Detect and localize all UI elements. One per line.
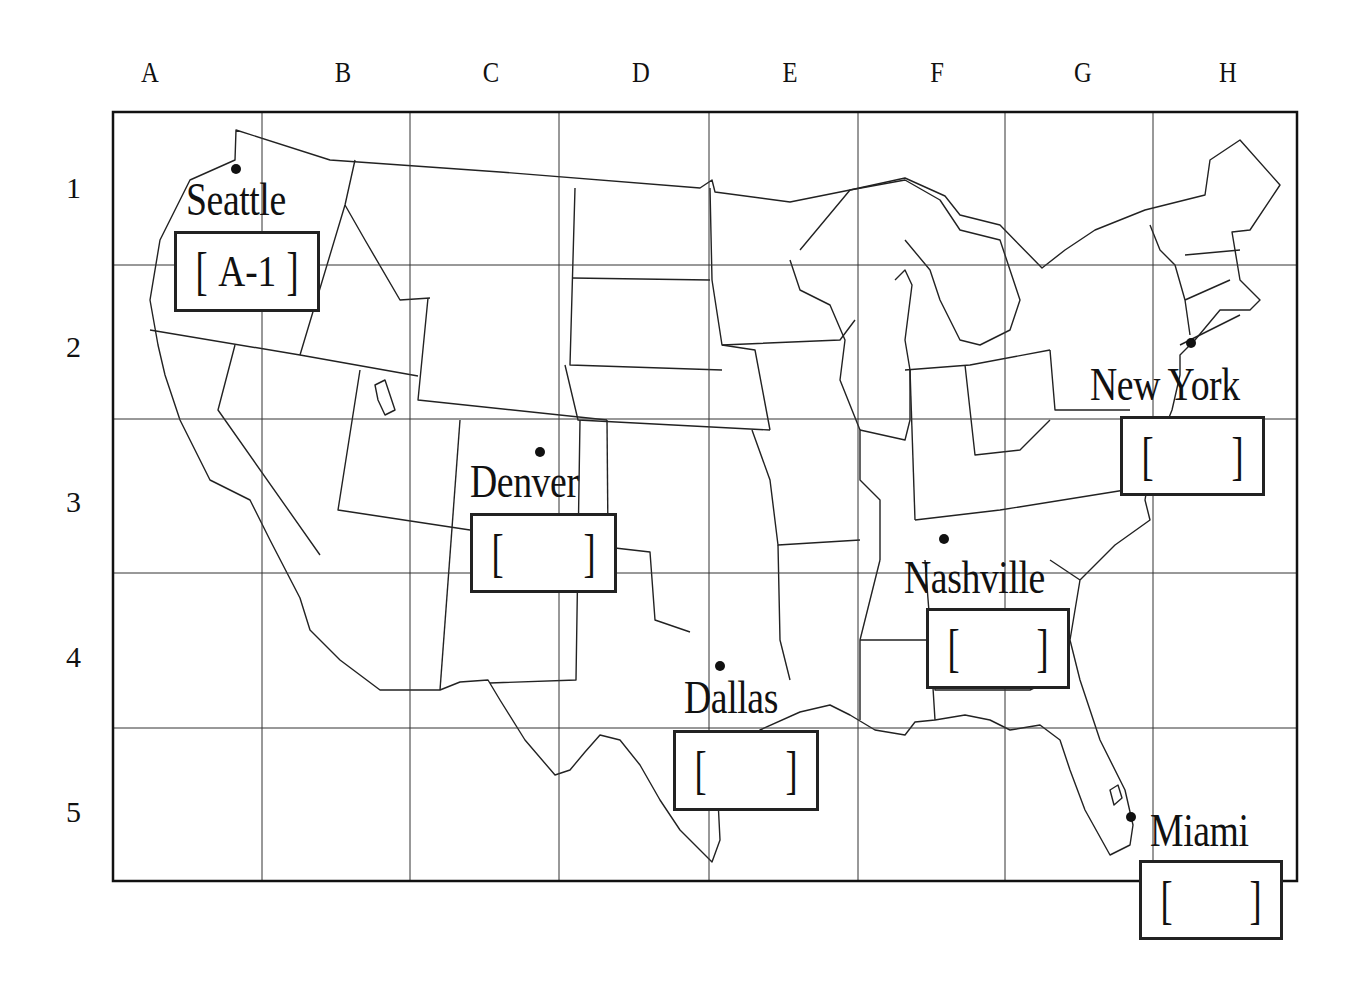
seattle-marker — [231, 164, 241, 174]
open-bracket: [ — [196, 242, 208, 301]
close-bracket: ] — [785, 741, 797, 800]
answer-box-miami[interactable]: [ ] — [1139, 860, 1283, 940]
answer-value-seattle: A-1 — [218, 246, 276, 297]
close-bracket: ] — [286, 242, 298, 301]
city-name-miami: Miami — [1150, 808, 1249, 854]
answer-box-seattle[interactable]: [ A-1 ] — [174, 231, 320, 312]
answer-box-new-york[interactable]: [ ] — [1120, 416, 1265, 496]
open-bracket: [ — [492, 524, 504, 583]
close-bracket: ] — [1231, 427, 1243, 486]
close-bracket: ] — [1036, 619, 1048, 678]
miami-marker — [1126, 812, 1136, 822]
nashville-marker — [939, 534, 949, 544]
dallas-marker — [715, 661, 725, 671]
open-bracket: [ — [1161, 871, 1173, 930]
answer-box-nashville[interactable]: [ ] — [926, 608, 1070, 689]
answer-box-denver[interactable]: [ ] — [470, 513, 617, 593]
open-bracket: [ — [1142, 427, 1154, 486]
answer-box-dallas[interactable]: [ ] — [673, 730, 819, 811]
close-bracket: ] — [583, 524, 595, 583]
city-name-nashville: Nashville — [904, 555, 1045, 601]
new-york-marker — [1186, 338, 1196, 348]
close-bracket: ] — [1249, 871, 1261, 930]
city-name-denver: Denver — [470, 459, 579, 505]
open-bracket: [ — [948, 619, 960, 678]
open-bracket: [ — [695, 741, 707, 800]
city-name-new-york: New York — [1090, 362, 1240, 408]
city-name-seattle: Seattle — [186, 177, 286, 223]
city-name-dallas: Dallas — [684, 675, 778, 721]
